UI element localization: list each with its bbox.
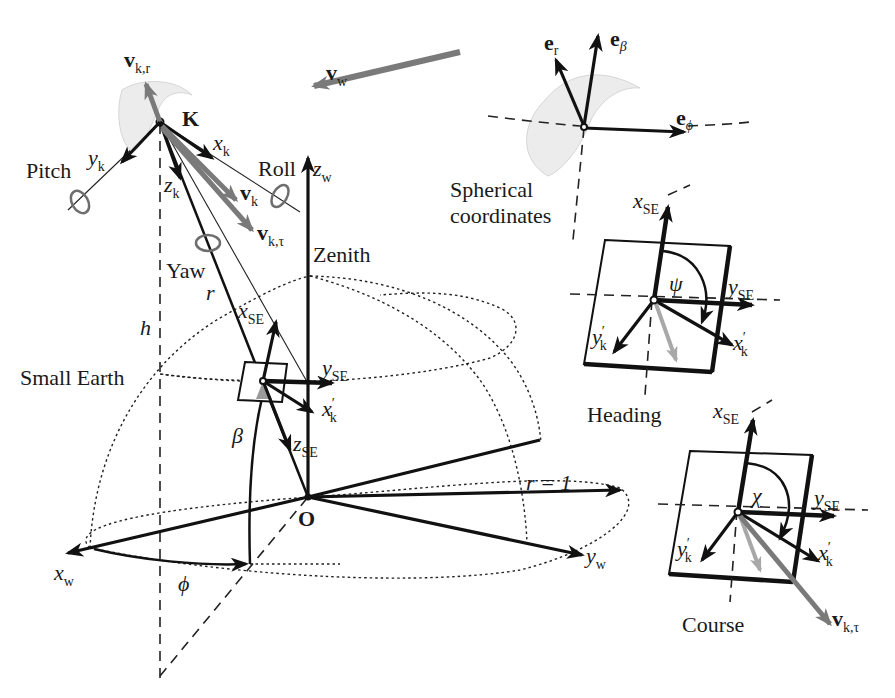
- label-zk: zk: [163, 172, 180, 201]
- label-yse: ySE: [320, 355, 348, 384]
- label-roll: Roll: [258, 156, 296, 181]
- meridian-left: [90, 276, 310, 548]
- origin-marker: [305, 494, 312, 501]
- label-course-xse: xSE: [712, 398, 739, 427]
- heading-inset: xSE ψ ySE y′k x′k Heading: [570, 185, 780, 427]
- label-zse: zSE: [292, 431, 318, 460]
- label-h: h: [140, 315, 151, 340]
- course-v-ktau-vector: [740, 516, 830, 624]
- label-e-r: er: [544, 30, 559, 58]
- label-yw: yw: [584, 543, 607, 572]
- label-coordinates: coordinates: [450, 203, 551, 228]
- label-chi: χ: [750, 483, 763, 508]
- roll-rotation-icon: [268, 182, 292, 210]
- label-course-xk-prime: x′k: [817, 540, 833, 569]
- label-zenith: Zenith: [313, 242, 370, 267]
- label-xk: xk: [212, 130, 230, 159]
- course-xse-axis: [738, 420, 753, 512]
- label-pitch: Pitch: [26, 158, 71, 183]
- label-beta: β: [231, 423, 243, 448]
- heading-xse-axis: [654, 207, 668, 300]
- course-inset: xSE χ ySE y′k x′k vk,τ Course: [658, 398, 868, 637]
- label-e-beta: eβ: [610, 26, 627, 54]
- label-r-equals-1: r = 1: [526, 470, 571, 495]
- label-phi: ϕ: [178, 571, 189, 596]
- label-heading-xse: xSE: [632, 188, 659, 217]
- label-psi: ψ: [669, 271, 683, 296]
- label-heading-yk-prime: y′k: [590, 324, 607, 353]
- label-spherical: Spherical: [450, 177, 533, 202]
- label-course-v-ktau: vk,τ: [832, 606, 860, 635]
- meridian-inner: [310, 276, 527, 542]
- meridian-right: [310, 276, 541, 440]
- yw-axis: [308, 497, 582, 555]
- label-yk: yk: [86, 145, 105, 174]
- label-small-earth: Small Earth: [20, 365, 124, 390]
- label-heading: Heading: [587, 402, 662, 427]
- label-v-w: vw: [326, 60, 348, 89]
- equator-radial: [308, 440, 540, 497]
- e-phi-vector: [584, 128, 684, 132]
- label-xse: xSE: [237, 298, 264, 327]
- unit-hemisphere: [86, 276, 629, 578]
- heading-yk-prime-axis: [614, 300, 654, 352]
- label-course-yse: ySE: [812, 485, 840, 514]
- yse-axis: [263, 381, 332, 383]
- label-zw: zw: [312, 156, 333, 185]
- label-origin-o: O: [298, 506, 315, 531]
- course-xk-prime-axis: [738, 512, 818, 561]
- small-earth-frame: [238, 322, 332, 450]
- label-v-k: vk: [240, 180, 258, 209]
- spherical-coordinates-inset: er eβ eϕ Spherical coordinates: [450, 26, 750, 240]
- label-heading-yse: ySE: [726, 274, 754, 303]
- kite-coordinate-diagram: vk,r vw K xk yk Pitch zk Roll zw vk vk,τ…: [0, 0, 895, 698]
- xw-axis: [68, 497, 308, 553]
- label-yaw: Yaw: [166, 258, 205, 283]
- label-course: Course: [682, 612, 744, 637]
- pitch-rotation-icon: [67, 188, 93, 217]
- label-v-kr: vk,r: [124, 47, 151, 76]
- label-xw: xw: [53, 560, 75, 589]
- v-ktau-vector: [162, 128, 252, 230]
- course-yk-prime-axis: [702, 512, 738, 560]
- beta-arc: [250, 398, 263, 564]
- label-kite-k: K: [182, 106, 199, 131]
- label-v-ktau: vk,τ: [257, 220, 285, 249]
- label-course-yk-prime: y′k: [675, 536, 692, 565]
- label-xk-prime: x′k: [321, 396, 337, 425]
- label-e-phi: eϕ: [676, 105, 693, 133]
- label-heading-xk-prime: x′k: [732, 330, 748, 359]
- spherical-horizontal-dash-right: [688, 122, 750, 126]
- phi-arc: [94, 549, 246, 564]
- course-yse-axis: [738, 512, 834, 516]
- label-r: r: [206, 280, 215, 305]
- heading-vertical-dash: [645, 300, 652, 395]
